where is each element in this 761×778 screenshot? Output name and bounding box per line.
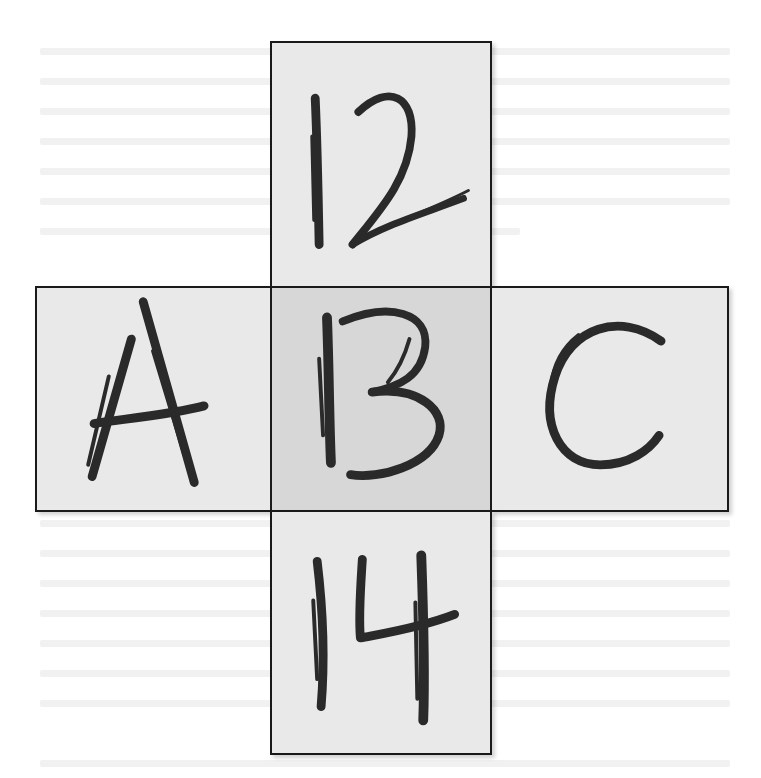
handwritten-A-glyph (37, 288, 270, 510)
handwritten-C-glyph (492, 288, 727, 510)
cell-top-12: 12 (270, 41, 492, 288)
cell-bottom-14: 14 (270, 510, 492, 755)
cell-left-A: A (35, 286, 272, 512)
handwritten-B-or-13-glyph (272, 288, 490, 510)
cell-center-B-13: B 13 (270, 286, 492, 512)
cell-right-C: C (490, 286, 729, 512)
handwritten-12-glyph (272, 43, 490, 286)
handwritten-14-glyph (272, 512, 490, 753)
